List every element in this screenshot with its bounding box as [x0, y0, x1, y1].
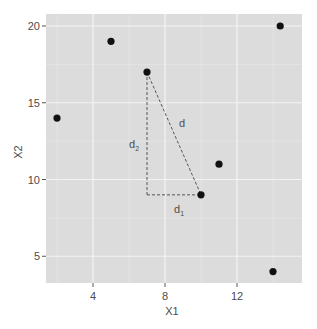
label-d: d: [179, 117, 185, 129]
y-axis-ticks: 5101520: [28, 20, 46, 262]
data-point: [107, 38, 114, 45]
y-tick-label: 5: [34, 250, 40, 262]
data-point: [269, 268, 276, 275]
data-point: [197, 191, 204, 198]
x-tick-label: 4: [90, 290, 96, 302]
data-point: [277, 22, 284, 29]
x-tick-label: 8: [162, 290, 168, 302]
y-tick-label: 10: [28, 174, 40, 186]
data-point: [215, 161, 222, 168]
y-tick-label: 20: [28, 20, 40, 32]
y-axis-title: X2: [12, 145, 24, 158]
scatter-chart: 4812 5101520 d d2 d1 X1 X2: [0, 0, 317, 329]
x-tick-label: 12: [231, 290, 243, 302]
data-point: [143, 68, 150, 75]
plot-panel: [46, 14, 302, 283]
data-point: [53, 115, 60, 122]
x-axis-ticks: 4812: [90, 283, 243, 302]
x-axis-title: X1: [165, 305, 178, 317]
y-tick-label: 15: [28, 97, 40, 109]
